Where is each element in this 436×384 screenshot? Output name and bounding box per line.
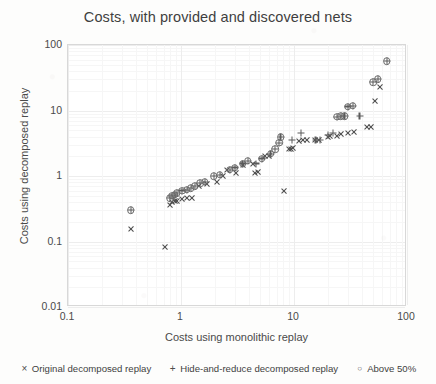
data-point-circle — [201, 178, 209, 186]
data-point-plus — [356, 112, 363, 119]
gridline-vertical — [249, 45, 250, 305]
legend-entry[interactable]: ×Original decomposed replay — [20, 363, 151, 374]
x-tick-label: 100 — [376, 310, 436, 322]
y-tick-label: 100 — [18, 38, 62, 50]
gridline-horizontal — [68, 111, 405, 112]
gridline-horizontal — [68, 196, 405, 197]
data-point-circle — [258, 155, 266, 163]
gridline-horizontal — [68, 179, 405, 180]
gridline-vertical — [68, 45, 69, 305]
data-point-plus — [329, 129, 336, 136]
data-point-x — [255, 169, 262, 176]
gridline-horizontal — [68, 156, 405, 157]
gridline-vertical — [181, 45, 182, 305]
legend-marker-icon: × — [20, 363, 29, 374]
gridline-vertical — [390, 45, 391, 305]
data-point-x — [290, 144, 297, 151]
gridline-vertical — [402, 45, 403, 305]
chart-title: Costs, with provided and discovered nets — [0, 9, 436, 25]
gridline-vertical — [283, 45, 284, 305]
data-point-x — [368, 123, 375, 130]
gridline-horizontal — [68, 48, 405, 49]
data-point-circle — [383, 57, 391, 65]
data-point-plus — [297, 129, 304, 136]
data-point-circle — [271, 146, 279, 154]
gridline-horizontal — [68, 145, 405, 146]
gridline-horizontal — [68, 245, 405, 246]
data-point-circle — [127, 206, 135, 214]
gridline-horizontal — [68, 210, 405, 211]
data-point-plus — [317, 136, 324, 143]
x-tick-label: 0.1 — [37, 310, 97, 322]
gridline-vertical — [136, 45, 137, 305]
scatter-chart: Costs, with provided and discovered nets… — [0, 0, 436, 384]
data-point-x — [371, 97, 378, 104]
gridline-horizontal — [68, 182, 405, 183]
gridline-vertical — [122, 45, 123, 305]
data-point-circle — [277, 134, 285, 142]
gridline-horizontal — [68, 307, 405, 308]
data-point-x — [127, 226, 134, 233]
data-point-x — [161, 244, 168, 251]
legend-entry[interactable]: ○Above 50% — [355, 363, 416, 374]
data-point-x — [377, 83, 384, 90]
gridline-vertical — [102, 45, 103, 305]
gridline-horizontal — [68, 137, 405, 138]
gridline-vertical — [294, 45, 295, 305]
gridline-horizontal — [68, 186, 405, 187]
data-point-plus — [289, 136, 296, 143]
gridline-horizontal — [68, 60, 405, 61]
gridline-horizontal — [68, 268, 405, 269]
gridline-horizontal — [68, 256, 405, 257]
gridline-horizontal — [68, 71, 405, 72]
data-point-circle — [216, 171, 224, 179]
data-point-x — [189, 194, 196, 201]
legend-entry[interactable]: +Hide-and-reduce decomposed replay — [168, 363, 338, 374]
data-point-x — [303, 137, 310, 144]
legend-label: Original decomposed replay — [32, 363, 151, 374]
gridline-vertical — [147, 45, 148, 305]
gridline-horizontal — [68, 242, 405, 243]
x-tick-label: 1 — [150, 310, 210, 322]
gridline-horizontal — [68, 55, 405, 56]
legend-label: Hide-and-reduce decomposed replay — [180, 363, 338, 374]
gridline-vertical — [176, 45, 177, 305]
gridline-horizontal — [68, 261, 405, 262]
gridline-horizontal — [68, 276, 405, 277]
gridline-horizontal — [68, 117, 405, 118]
data-point-circle — [374, 75, 382, 83]
gridline-vertical — [156, 45, 157, 305]
gridline-horizontal — [68, 65, 405, 66]
gridline-horizontal — [68, 222, 405, 223]
legend-marker-icon: ○ — [355, 363, 364, 374]
data-point-circle — [231, 164, 239, 172]
gridline-vertical — [407, 45, 408, 305]
gridline-horizontal — [68, 79, 405, 80]
gridline-horizontal — [68, 121, 405, 122]
gridline-vertical — [348, 45, 349, 305]
data-point-circle — [341, 112, 349, 120]
gridline-vertical — [170, 45, 171, 305]
data-point-x — [214, 179, 221, 186]
y-axis-title: Costs using decomposed replay — [18, 76, 30, 256]
chart-legend: ×Original decomposed replay+Hide-and-red… — [0, 363, 436, 374]
gridline-horizontal — [68, 287, 405, 288]
x-axis-tick-labels: 0.1110100 — [0, 310, 436, 326]
data-point-x — [281, 187, 288, 194]
gridline-horizontal — [68, 45, 405, 46]
plot-area — [67, 44, 406, 306]
gridline-vertical — [277, 45, 278, 305]
data-point-x — [337, 130, 344, 137]
data-point-circle — [244, 157, 252, 165]
x-tick-label: 10 — [263, 310, 323, 322]
legend-marker-icon: + — [168, 363, 177, 374]
x-axis-title: Costs using monolithic replay — [67, 331, 406, 343]
gridline-vertical — [328, 45, 329, 305]
gridline-vertical — [362, 45, 363, 305]
gridline-horizontal — [68, 191, 405, 192]
legend-label: Above 50% — [367, 363, 416, 374]
gridline-vertical — [269, 45, 270, 305]
gridline-horizontal — [68, 252, 405, 253]
gridline-vertical — [396, 45, 397, 305]
data-point-circle — [349, 102, 357, 110]
